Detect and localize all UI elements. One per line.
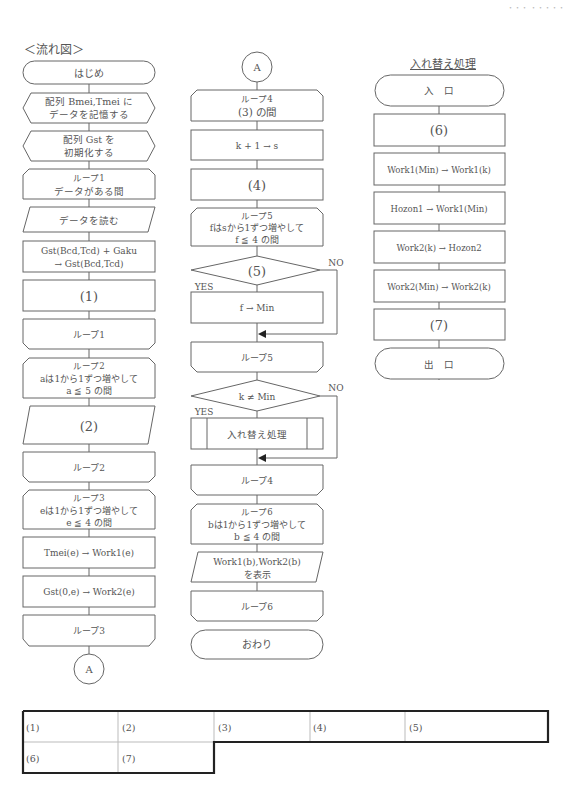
- entry-terminator: 入 口: [375, 75, 504, 106]
- svg-text:ループ1: ループ1: [73, 330, 105, 340]
- answer-input-4[interactable]: [311, 712, 404, 741]
- blank-4-process: (4): [191, 169, 323, 200]
- svg-text:データがある間: データがある間: [54, 186, 124, 197]
- svg-text:fはsから1ずつ増やして: fはsから1ずつ増やして: [210, 222, 305, 233]
- answer-input-3[interactable]: [215, 712, 309, 741]
- loop6-start: ループ6 bは1から1ずつ増やして b ≦ 4 の間: [191, 504, 323, 544]
- decision-5: (5) YES NO: [191, 256, 344, 292]
- assign-work1-process: Tmei(e) → Work1(e): [23, 537, 155, 568]
- svg-text:Gst(0,e) → Work2(e): Gst(0,e) → Work2(e): [43, 587, 135, 597]
- display-io: Work1(b),Work2(b) を表示: [191, 552, 323, 582]
- svg-text:を表示: を表示: [244, 569, 271, 580]
- swap-step-1: Work1(Min) → Work1(k): [374, 153, 505, 185]
- swap-step-4: Work2(Min) → Work2(k): [374, 270, 505, 302]
- svg-text:A: A: [84, 664, 93, 675]
- svg-text:(7): (7): [430, 318, 448, 333]
- svg-text:ループ4: ループ4: [241, 94, 272, 104]
- decision-k-yes-label: YES: [194, 407, 214, 417]
- flowchart-canvas: はじめ 配列 Bmei,Tmei に データを記憶する 配列 Gst を 初期化…: [0, 0, 571, 790]
- svg-text:ループ4: ループ4: [241, 476, 273, 486]
- start-terminator: はじめ: [23, 61, 155, 84]
- svg-text:Work1(Min) → Work1(k): Work1(Min) → Work1(k): [387, 165, 491, 175]
- svg-text:ループ2: ループ2: [73, 463, 105, 473]
- connector-a-in: A: [242, 52, 272, 82]
- f-to-min-process: f → Min: [191, 292, 323, 323]
- svg-text:bは1から1ずつ増やして: bは1から1ずつ増やして: [208, 519, 306, 530]
- svg-text:おわり: おわり: [242, 639, 272, 650]
- svg-text:Tmei(e) → Work1(e): Tmei(e) → Work1(e): [44, 548, 134, 558]
- loop2-start: ループ2 aは1から1ずつ増やして a ≦ 5 の間: [23, 358, 155, 398]
- svg-text:初期化する: 初期化する: [64, 147, 114, 158]
- svg-text:k + 1 → s: k + 1 → s: [236, 141, 279, 151]
- svg-text:入れ替え処理: 入れ替え処理: [227, 429, 287, 440]
- svg-text:データを読む: データを読む: [59, 215, 119, 226]
- svg-text:e ≦ 4 の間: e ≦ 4 の間: [66, 518, 112, 528]
- answer-input-7[interactable]: [119, 743, 213, 772]
- decision-5-no-label: NO: [328, 258, 343, 268]
- svg-text:(1): (1): [80, 289, 98, 304]
- loop4-start: ループ4 (3) の間: [191, 90, 323, 121]
- svg-text:(6): (6): [430, 123, 448, 138]
- swap-subroutine-call[interactable]: 入れ替え処理: [191, 418, 323, 449]
- svg-text:ループ6: ループ6: [241, 507, 272, 517]
- loop5-end: ループ5: [191, 342, 323, 372]
- svg-text:Gst(Bcd,Tcd) + Gaku: Gst(Bcd,Tcd) + Gaku: [41, 246, 137, 256]
- blank-1-process: (1): [23, 280, 155, 311]
- svg-text:ループ3: ループ3: [73, 626, 105, 636]
- svg-text:a ≦ 5 の間: a ≦ 5 の間: [66, 386, 112, 396]
- answer-input-2[interactable]: [119, 712, 213, 741]
- exit-terminator: 出 口: [375, 348, 504, 379]
- svg-text:k ≠ Min: k ≠ Min: [239, 392, 276, 402]
- loop1-end: ループ1: [23, 319, 155, 349]
- svg-text:Work2(k) → Hozon2: Work2(k) → Hozon2: [396, 243, 481, 253]
- svg-text:→ Gst(Bcd,Tcd): → Gst(Bcd,Tcd): [54, 259, 123, 269]
- svg-text:ループ2: ループ2: [73, 361, 104, 371]
- answer-input-6[interactable]: [24, 743, 117, 772]
- loop4-end: ループ4: [191, 465, 323, 495]
- blank-7-process: (7): [374, 309, 505, 340]
- svg-text:ループ5: ループ5: [241, 211, 272, 221]
- svg-text:Hozon1 → Work1(Min): Hozon1 → Work1(Min): [391, 204, 488, 214]
- svg-text:配列 Gst を: 配列 Gst を: [63, 134, 115, 145]
- svg-text:Work2(Min) → Work2(k): Work2(Min) → Work2(k): [387, 282, 491, 292]
- decision-k-no-label: NO: [328, 383, 343, 393]
- loop3-end: ループ3: [23, 615, 155, 646]
- decision-5-yes-label: YES: [194, 282, 214, 292]
- svg-text:配列 Bmei,Tmei に: 配列 Bmei,Tmei に: [45, 96, 133, 107]
- swap-step-3: Work2(k) → Hozon2: [374, 231, 505, 263]
- svg-text:eは1から1ずつ増やして: eは1から1ずつ増やして: [40, 505, 138, 516]
- svg-text:ループ3: ループ3: [73, 493, 104, 503]
- svg-text:f ≦ 4 の間: f ≦ 4 の間: [235, 235, 279, 245]
- svg-text:(5): (5): [248, 264, 266, 279]
- svg-text:(4): (4): [248, 178, 266, 193]
- svg-text:(3) の間: (3) の間: [238, 106, 276, 118]
- svg-text:ループ1: ループ1: [73, 173, 104, 183]
- middle-column: A ループ4 (3) の間 k + 1 → s (4) ループ5 fはsから1ず…: [191, 52, 344, 659]
- init-gst-preparation: 配列 Gst を 初期化する: [23, 131, 155, 161]
- connector-a-out: A: [74, 654, 104, 684]
- blank-2-io: (2): [23, 406, 155, 444]
- svg-text:出 口: 出 口: [424, 359, 454, 370]
- svg-text:A: A: [252, 62, 261, 73]
- answer-input-1[interactable]: [24, 712, 117, 741]
- loop1-start: ループ1 データがある間: [23, 169, 155, 199]
- loop5-start: ループ5 fはsから1ずつ増やして f ≦ 4 の間: [191, 208, 323, 246]
- start-label: はじめ: [74, 68, 104, 79]
- read-data-io: データを読む: [23, 207, 155, 232]
- loop6-end: ループ6: [191, 591, 323, 621]
- right-column: 入 口 (6) Work1(Min) → Work1(k) Hozon1 → W…: [374, 75, 505, 380]
- loop2-end: ループ2: [23, 452, 155, 482]
- end-terminator: おわり: [191, 630, 323, 659]
- svg-text:データを記憶する: データを記憶する: [49, 109, 129, 120]
- accumulate-process: Gst(Bcd,Tcd) + Gaku → Gst(Bcd,Tcd): [23, 241, 155, 272]
- svg-text:f → Min: f → Min: [240, 303, 275, 313]
- svg-text:aは1から1ずつ増やして: aは1から1ずつ増やして: [40, 373, 138, 384]
- loop3-start: ループ3 eは1から1ずつ増やして e ≦ 4 の間: [23, 490, 155, 529]
- svg-text:入 口: 入 口: [424, 85, 454, 96]
- svg-text:Work1(b),Work2(b): Work1(b),Work2(b): [213, 557, 301, 567]
- store-data-preparation: 配列 Bmei,Tmei に データを記憶する: [23, 93, 155, 123]
- answer-input-5[interactable]: [406, 712, 547, 741]
- svg-text:ループ5: ループ5: [241, 353, 273, 363]
- svg-text:ループ6: ループ6: [241, 602, 273, 612]
- swap-step-2: Hozon1 → Work1(Min): [374, 192, 505, 224]
